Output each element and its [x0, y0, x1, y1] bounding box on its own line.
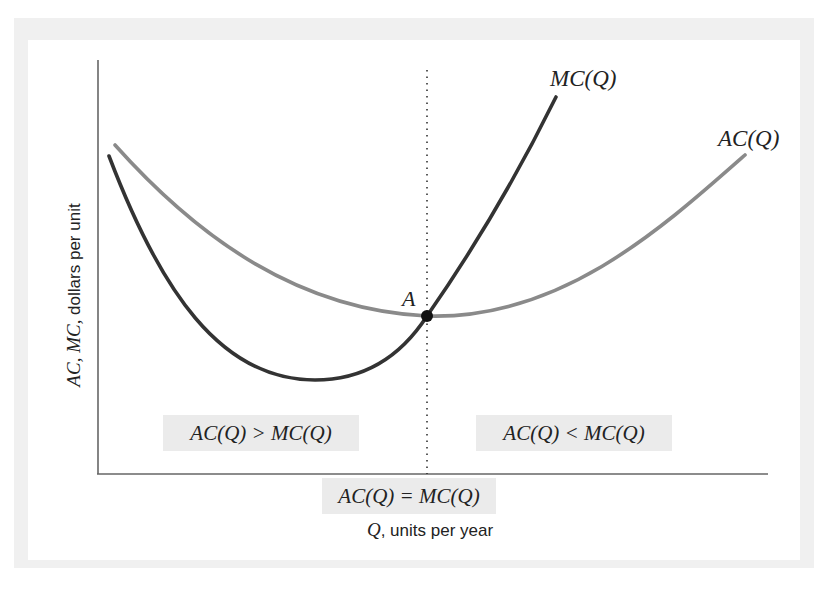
region-right-label: AC(Q) < MC(Q) — [476, 415, 672, 451]
point-a-marker — [421, 310, 433, 322]
mc-curve-label: MC(Q) — [550, 66, 616, 92]
y-axis-label: AC, MC, dollars per unit — [63, 203, 85, 386]
x-axis-label: Q, units per year — [340, 519, 520, 541]
ac-curve — [115, 145, 745, 316]
point-a-label: A — [402, 286, 415, 312]
x-axis-unit: , units per year — [381, 521, 493, 540]
mc-curve — [109, 97, 556, 380]
y-axis-unit: dollars per unit — [65, 203, 84, 319]
x-axis-variable: Q — [367, 519, 381, 540]
equality-label: AC(Q) = MC(Q) — [322, 478, 496, 514]
region-left-label: AC(Q) > MC(Q) — [163, 415, 359, 451]
ac-curve-label: AC(Q) — [718, 126, 779, 152]
y-axis-variables: AC, MC, — [63, 320, 84, 387]
